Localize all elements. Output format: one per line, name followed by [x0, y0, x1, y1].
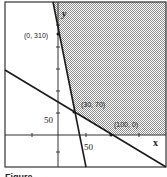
vertex-100-0 — [110, 134, 113, 137]
feasible-region — [53, 2, 166, 135]
y-tick-label-50: 50 — [44, 115, 54, 125]
vertex-0-310 — [57, 33, 60, 36]
vertex-30-70 — [73, 111, 76, 114]
point-label-100-0: (100, 0) — [114, 121, 138, 129]
x-tick-label-50: 50 — [84, 142, 94, 152]
point-label-30-70: (30, 70) — [81, 101, 105, 109]
figure-caption: Figure ... — [5, 172, 43, 177]
y-axis-label: y — [61, 8, 67, 19]
feasible-region-diagram: y x (0, 310) (30, 70) (100, 0) 50 50 Fig… — [0, 0, 167, 177]
point-label-0-310: (0, 310) — [24, 32, 48, 40]
x-axis-label: x — [153, 137, 158, 148]
